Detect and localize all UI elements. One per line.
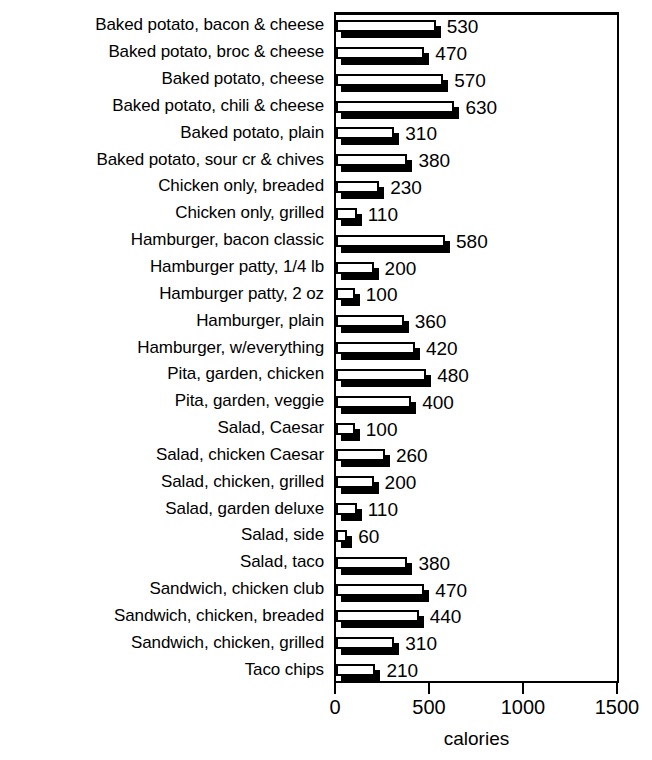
bar-value-label: 210 — [386, 660, 418, 682]
category-label: Chicken only, breaded — [158, 176, 324, 195]
bar-row: 200 — [336, 257, 617, 284]
bar — [336, 369, 426, 381]
bar — [336, 127, 394, 139]
category-label: Salad, side — [241, 525, 324, 544]
x-axis-tick — [522, 683, 524, 694]
bar-value-label: 110 — [368, 204, 398, 226]
category-label: Sandwich, chicken, breaded — [114, 606, 324, 625]
bar-value-label: 580 — [456, 231, 488, 253]
bar — [336, 181, 379, 193]
bar-value-label: 310 — [405, 123, 437, 145]
category-label: Baked potato, bacon & cheese — [95, 15, 324, 34]
bar-value-label: 420 — [426, 338, 458, 360]
bar-value-label: 360 — [415, 311, 447, 333]
bar — [336, 476, 374, 488]
category-label: Hamburger patty, 2 oz — [159, 284, 324, 303]
bar-row: 310 — [336, 122, 617, 149]
bar-row: 580 — [336, 230, 617, 257]
bar-value-label: 470 — [435, 580, 467, 602]
bar — [336, 262, 374, 274]
bar-row: 480 — [336, 364, 617, 391]
bar-value-label: 230 — [390, 177, 422, 199]
category-label: Pita, garden, chicken — [167, 364, 324, 383]
bar — [336, 503, 357, 515]
bar-value-label: 100 — [366, 419, 398, 441]
bar-value-label: 310 — [405, 633, 437, 655]
bar — [336, 235, 445, 247]
bar — [336, 557, 407, 569]
bar — [336, 154, 407, 166]
bar-value-label: 400 — [422, 392, 454, 414]
x-axis-tick — [428, 683, 430, 694]
category-label: Baked potato, plain — [180, 123, 324, 142]
bar — [336, 530, 347, 542]
bar-value-label: 200 — [385, 258, 417, 280]
bar-row: 200 — [336, 471, 617, 498]
bar — [336, 584, 424, 596]
category-label: Baked potato, cheese — [162, 69, 324, 88]
category-label: Chicken only, grilled — [175, 203, 324, 222]
bar-value-label: 630 — [465, 97, 497, 119]
category-label: Pita, garden, veggie — [175, 391, 324, 410]
category-label: Salad, taco — [240, 552, 324, 571]
bar-row: 630 — [336, 96, 617, 123]
bar-value-label: 480 — [437, 365, 469, 387]
category-label: Sandwich, chicken, grilled — [131, 633, 324, 652]
bar — [336, 101, 454, 113]
x-axis-tick-label: 1500 — [595, 696, 640, 719]
x-axis-title: calories — [334, 728, 619, 750]
bar-row: 380 — [336, 552, 617, 579]
bar-row: 260 — [336, 444, 617, 471]
x-axis-tick — [616, 683, 618, 694]
bar-row: 310 — [336, 632, 617, 659]
bar — [336, 315, 404, 327]
bar — [336, 74, 443, 86]
category-label: Hamburger, bacon classic — [131, 230, 324, 249]
bar-value-label: 60 — [358, 526, 379, 548]
bar-value-label: 110 — [368, 499, 398, 521]
bar-row: 400 — [336, 391, 617, 418]
x-axis-tick-label: 0 — [329, 696, 340, 719]
x-axis-tick-label: 500 — [412, 696, 445, 719]
category-label: Salad, Caesar — [218, 418, 324, 437]
category-label: Taco chips — [245, 660, 324, 679]
category-label: Salad, garden deluxe — [165, 499, 324, 518]
category-label: Salad, chicken Caesar — [156, 445, 324, 464]
bar — [336, 637, 394, 649]
bar-row: 530 — [336, 15, 617, 42]
bar — [336, 288, 355, 300]
bar-row: 230 — [336, 176, 617, 203]
bar — [336, 396, 411, 408]
bar-row: 470 — [336, 42, 617, 69]
bar-row: 420 — [336, 337, 617, 364]
bar-row: 60 — [336, 525, 617, 552]
bar-value-label: 470 — [435, 43, 467, 65]
bar-row: 440 — [336, 605, 617, 632]
bar-row: 570 — [336, 69, 617, 96]
bar — [336, 47, 424, 59]
category-label: Baked potato, sour cr & chives — [96, 150, 324, 169]
bar-value-label: 530 — [447, 16, 479, 38]
bar-row: 110 — [336, 498, 617, 525]
category-label: Hamburger, w/everything — [137, 338, 324, 357]
bar-row: 100 — [336, 283, 617, 310]
bar — [336, 610, 419, 622]
bar-row: 100 — [336, 418, 617, 445]
bar-value-label: 260 — [396, 445, 428, 467]
x-axis: 050010001500 — [334, 683, 619, 684]
category-label: Hamburger patty, 1/4 lb — [150, 257, 324, 276]
bar-value-label: 440 — [430, 606, 462, 628]
plot-area: 5304705706303103802301105802001003604204… — [334, 12, 619, 683]
category-label: Sandwich, chicken club — [149, 579, 324, 598]
category-label: Baked potato, broc & cheese — [108, 42, 324, 61]
bar — [336, 20, 436, 32]
bar-value-label: 380 — [418, 150, 450, 172]
bar-row: 210 — [336, 659, 617, 686]
bar-row: 110 — [336, 203, 617, 230]
bar-row: 380 — [336, 149, 617, 176]
bar — [336, 342, 415, 354]
bar-value-label: 100 — [366, 284, 398, 306]
calories-bar-chart: Baked potato, bacon & cheeseBaked potato… — [0, 0, 652, 760]
bar — [336, 208, 357, 220]
category-axis-labels: Baked potato, bacon & cheeseBaked potato… — [0, 12, 328, 683]
